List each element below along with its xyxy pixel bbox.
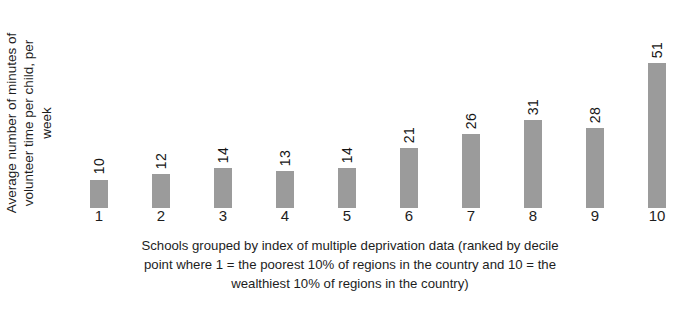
bar-value-label: 31 xyxy=(526,99,540,115)
x-axis-tick-labels: 12345678910 xyxy=(68,208,682,230)
bar-group: 10 xyxy=(68,18,130,208)
y-axis-label: Average number of minutes of volunteer t… xyxy=(0,8,58,238)
x-axis-caption-line-3: wealthiest 10% of regions in the country… xyxy=(110,274,590,293)
x-axis-tick-label: 1 xyxy=(68,208,130,225)
bar xyxy=(338,168,356,208)
x-axis-caption: Schools grouped by index of multiple dep… xyxy=(110,236,590,293)
bar-value-label: 12 xyxy=(154,153,168,169)
y-axis-label-line-1: Average number of minutes of xyxy=(3,33,20,214)
bar-group: 14 xyxy=(192,18,254,208)
bar xyxy=(276,171,294,208)
y-axis-label-line-3: week xyxy=(38,107,55,139)
bar-group: 13 xyxy=(254,18,316,208)
bar-group: 12 xyxy=(130,18,192,208)
bar xyxy=(648,63,666,208)
bar-value-label: 14 xyxy=(340,147,354,163)
bar-group: 14 xyxy=(316,18,378,208)
bar-value-label: 13 xyxy=(278,150,292,166)
bar-group: 21 xyxy=(378,18,440,208)
x-axis-tick-label: 2 xyxy=(130,208,192,225)
x-axis-tick-label: 7 xyxy=(440,208,502,225)
x-axis-caption-line-2: point where 1 = the poorest 10% of regio… xyxy=(110,255,590,274)
bar xyxy=(400,148,418,208)
x-axis-tick-label: 4 xyxy=(254,208,316,225)
y-axis-label-line-2: volunteer time per child, per xyxy=(20,40,37,207)
bar-value-label: 10 xyxy=(92,158,106,174)
bar-value-label: 26 xyxy=(464,113,478,129)
bar xyxy=(586,128,604,208)
x-axis-tick-label: 3 xyxy=(192,208,254,225)
x-axis-tick-label: 10 xyxy=(626,208,688,225)
bar-value-label: 14 xyxy=(216,147,230,163)
bar-group: 31 xyxy=(502,18,564,208)
bar-value-label: 21 xyxy=(402,127,416,143)
bar-group: 28 xyxy=(564,18,626,208)
bar xyxy=(90,180,108,208)
bar xyxy=(214,168,232,208)
x-axis-tick-label: 9 xyxy=(564,208,626,225)
x-axis-tick-label: 6 xyxy=(378,208,440,225)
x-axis-tick-label: 5 xyxy=(316,208,378,225)
bar xyxy=(524,120,542,208)
x-axis-tick-label: 8 xyxy=(502,208,564,225)
bar-value-label: 28 xyxy=(588,107,602,123)
bar-group: 26 xyxy=(440,18,502,208)
chart-plot-area: 10121413142126312851 xyxy=(68,18,682,208)
bar xyxy=(152,174,170,208)
bar-group: 51 xyxy=(626,18,688,208)
x-axis-caption-line-1: Schools grouped by index of multiple dep… xyxy=(110,236,590,255)
bar xyxy=(462,134,480,208)
bar-value-label: 51 xyxy=(650,42,664,58)
